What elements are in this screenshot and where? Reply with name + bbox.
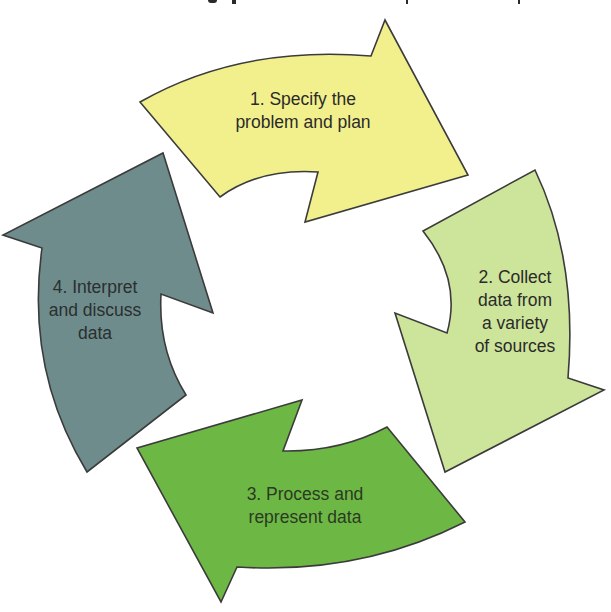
step-3-label: 3. Process and represent data xyxy=(215,483,395,529)
step-4-label: 4. Interpret and discuss data xyxy=(30,276,160,345)
step-1-label: 1. Specify the problem and plan xyxy=(213,88,393,134)
step-2-label: 2. Collect data from a variety of source… xyxy=(455,266,575,358)
